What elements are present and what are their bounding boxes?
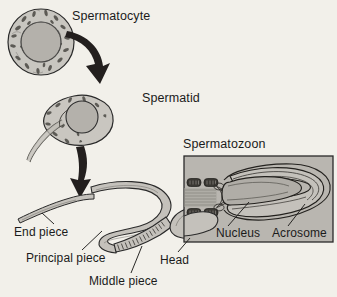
spermatid-cell (27, 95, 113, 162)
label-spermatozoon: Spermatozoon (183, 138, 266, 151)
spermatid-nucleus (66, 101, 98, 133)
principal-piece-leader-line (82, 231, 102, 250)
label-middle-piece: Middle piece (89, 275, 158, 287)
label-principal-piece: Principal piece (26, 252, 106, 264)
label-spermatocyte: Spermatocyte (72, 10, 150, 23)
end-piece-segment (18, 194, 94, 223)
label-acrosome: Acrosome (272, 227, 327, 239)
spermatocyte-cell (8, 9, 74, 75)
middle-piece-leader-line (131, 246, 142, 273)
label-nucleus: Nucleus (216, 227, 260, 239)
figure-canvas: Spermatocyte Spermatid Spermatozoon End … (0, 0, 337, 297)
label-head: Head (160, 254, 189, 266)
arrow-spermatid-to-spermatozoon (70, 146, 91, 198)
end-piece-leader-line (42, 213, 54, 224)
label-spermatid: Spermatid (142, 92, 200, 105)
label-end-piece: End piece (14, 226, 68, 238)
